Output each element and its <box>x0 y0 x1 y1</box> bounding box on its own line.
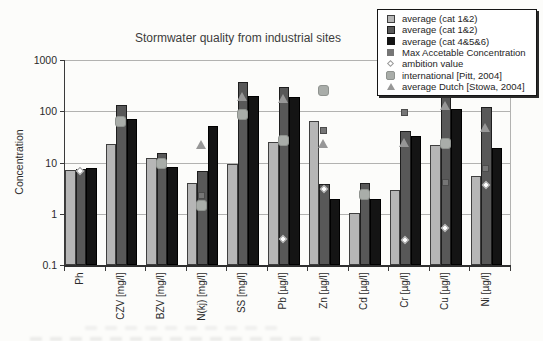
legend-item: Max Accetable Concentration <box>384 47 534 58</box>
bar-black <box>451 109 462 265</box>
x-category-label: Zn [µg/l] <box>317 273 330 335</box>
x-tick <box>429 267 430 271</box>
legend: average (cat 1&2)average (cat 1&2)averag… <box>377 9 537 96</box>
gray-square-swatch <box>387 49 394 56</box>
gray-triangle-marker <box>399 138 409 147</box>
faint-caption-artifact <box>85 326 285 330</box>
x-tick <box>388 267 389 271</box>
bar-black <box>248 96 259 265</box>
x-category-label: Cr [µg/l] <box>398 273 411 335</box>
x-tick <box>510 267 511 271</box>
light-rounded-square-marker <box>278 135 289 146</box>
x-tick <box>64 267 65 271</box>
bar-light-gray <box>106 144 117 265</box>
bar-dark-gray <box>76 169 87 265</box>
chart-canvas: Stormwater quality from industrial sites… <box>0 0 543 341</box>
bar-black <box>411 136 422 265</box>
bar-light-gray <box>390 190 401 265</box>
bar-dark-gray <box>197 171 208 265</box>
legend-item: ambition value <box>384 58 534 69</box>
y-tick-label: 0.1 <box>23 259 57 271</box>
bar-light-gray <box>471 176 482 265</box>
legend-item-label: Max Accetable Concentration <box>402 47 526 58</box>
legend-item: average (cat 4&5&6) <box>384 36 534 47</box>
legend-item-label: international [Pitt, 2004] <box>402 70 502 81</box>
gray-triangle-swatch <box>387 83 395 90</box>
bar-black <box>492 148 503 265</box>
dark-gray-icon <box>384 26 397 34</box>
bar-black <box>289 97 300 265</box>
light-rounded-square-marker <box>156 158 167 169</box>
light-gray-icon <box>384 15 397 23</box>
chart-title: Stormwater quality from industrial sites <box>113 31 363 45</box>
bar-light-gray <box>227 164 238 265</box>
gray-square-marker <box>442 179 449 186</box>
bar-light-gray <box>349 213 360 265</box>
gray-square-marker <box>482 165 489 172</box>
light-rounded-square-marker <box>318 85 329 96</box>
light-gray-swatch <box>387 15 395 23</box>
x-tick <box>348 267 349 271</box>
x-tick <box>307 267 308 271</box>
bar-dark-gray <box>116 105 127 265</box>
light-rounded-square-marker <box>115 116 126 127</box>
gray-square-icon <box>384 49 397 56</box>
x-axis-line <box>64 265 511 267</box>
bar-light-gray <box>146 158 157 265</box>
gray-triangle-marker <box>318 139 328 148</box>
gray-square-marker <box>320 127 327 134</box>
legend-item-label: average (cat 1&2) <box>402 13 478 24</box>
legend-item: average (cat 1&2) <box>384 24 534 35</box>
bar-black <box>127 119 138 265</box>
bar-black <box>167 167 178 265</box>
gray-triangle-marker <box>480 123 490 132</box>
y-tick-label: 10 <box>23 157 57 169</box>
x-category-label: Cd [µg/l] <box>358 273 371 335</box>
white-diamond-icon <box>384 61 397 66</box>
light-rounded-square-swatch <box>386 71 395 80</box>
legend-item-label: average Dutch [Stowa, 2004] <box>402 81 525 92</box>
x-tick <box>267 267 268 271</box>
light-rounded-square-icon <box>384 71 397 80</box>
light-rounded-square-marker <box>237 109 248 120</box>
x-tick <box>105 267 106 271</box>
black-icon <box>384 37 397 45</box>
light-rounded-square-marker <box>359 189 370 200</box>
gray-square-marker <box>198 192 205 199</box>
bar-dark-gray <box>319 184 330 265</box>
bar-black <box>330 199 341 265</box>
gray-square-marker <box>401 109 408 116</box>
x-category-label: Ni [µg/l] <box>479 273 492 335</box>
bar-light-gray <box>65 170 76 265</box>
dark-gray-swatch <box>387 26 395 34</box>
legend-item: average (cat 1&2) <box>384 13 534 24</box>
gray-triangle-marker <box>278 94 288 103</box>
bar-light-gray <box>187 183 198 265</box>
gray-triangle-icon <box>384 83 397 90</box>
x-tick <box>469 267 470 271</box>
x-tick <box>186 267 187 271</box>
y-tick-label: 100 <box>23 105 57 117</box>
y-tick-label: 1000 <box>23 54 57 66</box>
light-rounded-square-marker <box>440 138 451 149</box>
bar-black <box>208 126 219 265</box>
gray-triangle-marker <box>196 140 206 149</box>
legend-item: average Dutch [Stowa, 2004] <box>384 81 534 92</box>
bar-black <box>370 199 381 265</box>
x-category-label: Cu [µg/l] <box>439 273 452 335</box>
y-tick-label: 1 <box>23 208 57 220</box>
light-rounded-square-marker <box>196 200 207 211</box>
legend-item-label: average (cat 4&5&6) <box>402 36 489 47</box>
black-swatch <box>387 37 395 45</box>
bar-light-gray <box>268 142 279 265</box>
gray-triangle-marker <box>237 92 247 101</box>
bar-dark-gray <box>157 153 168 265</box>
bar-black <box>86 168 97 265</box>
faint-caption-artifact <box>30 337 320 341</box>
x-tick <box>226 267 227 271</box>
legend-item-label: ambition value <box>402 58 463 69</box>
bar-dark-gray <box>400 131 411 265</box>
legend-item: international [Pitt, 2004] <box>384 69 534 80</box>
legend-item-label: average (cat 1&2) <box>402 24 478 35</box>
x-tick <box>145 267 146 271</box>
